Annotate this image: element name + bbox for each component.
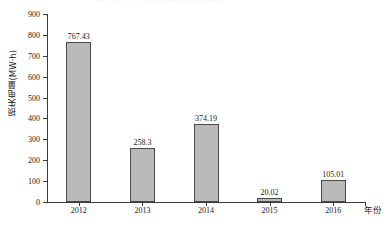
- y-axis-tick-label: 900: [28, 11, 40, 19]
- y-axis-tick: 900: [43, 14, 47, 15]
- y-axis-tick-label: 300: [28, 136, 40, 144]
- y-axis-tick-label: 400: [28, 115, 40, 123]
- y-axis-tick: 600: [43, 77, 47, 78]
- bar-2016: 105.01: [321, 180, 346, 202]
- x-axis-category-label: 2014: [198, 206, 214, 215]
- bar-value-label: 258.3: [133, 138, 151, 147]
- x-axis-category-label: 2015: [262, 206, 278, 215]
- x-axis-category-label: 2012: [71, 206, 87, 215]
- y-axis-tick-label: 500: [28, 95, 40, 103]
- y-axis-tick: 500: [43, 98, 47, 99]
- y-axis-title: 损失电量(MW·h): [8, 50, 19, 116]
- chart-figure: 图1 2012—2016年某风电场弃风损失电量 损失电量(MW·h) 年份 01…: [0, 0, 392, 236]
- bar-value-label: 105.01: [322, 170, 344, 179]
- bar-2013: 258.3: [130, 148, 155, 202]
- y-axis-line: [47, 14, 48, 202]
- bar-2014: 374.19: [194, 124, 219, 202]
- y-axis-tick: 300: [43, 139, 47, 140]
- y-axis-tick-label: 100: [28, 178, 40, 186]
- x-axis-category-label: 2013: [134, 206, 150, 215]
- x-axis-category-label: 2016: [325, 206, 341, 215]
- plot-area: 0100200300400500600700800900 767.4320122…: [47, 14, 365, 202]
- y-axis-tick: 0: [43, 202, 47, 203]
- y-axis-tick: 100: [43, 181, 47, 182]
- y-axis-tick-label: 0: [36, 199, 40, 207]
- y-axis-tick: 700: [43, 56, 47, 57]
- y-axis-tick: 400: [43, 118, 47, 119]
- bar-value-label: 767.43: [68, 32, 90, 41]
- y-axis-tick: 200: [43, 160, 47, 161]
- bar-2012: 767.43: [66, 42, 91, 202]
- bar-value-label: 374.19: [195, 114, 217, 123]
- clipped-caption-ghost: 图1 2012—2016年某风电场弃风损失电量: [96, 0, 296, 2]
- y-axis-tick-label: 600: [28, 74, 40, 82]
- x-axis-end-tick: [365, 202, 366, 206]
- y-axis-tick: 800: [43, 35, 47, 36]
- y-axis-tick-label: 200: [28, 157, 40, 165]
- x-axis-title: 年份: [364, 206, 382, 215]
- y-axis-tick-label: 700: [28, 53, 40, 61]
- bar-value-label: 20.02: [261, 188, 279, 197]
- y-axis-tick-label: 800: [28, 32, 40, 40]
